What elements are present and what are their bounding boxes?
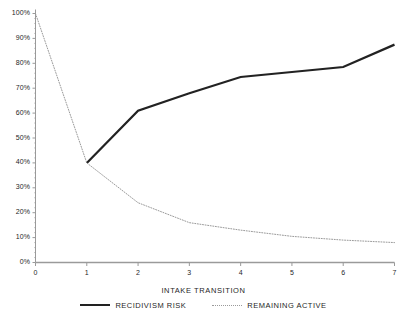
x-axis-title: INTAKE TRANSITION	[0, 286, 407, 295]
axis-group	[33, 10, 395, 267]
x-axis-tick-label: 2	[128, 269, 148, 276]
y-axis-tick-label: 50%	[0, 134, 30, 141]
y-axis-tick-label: 10%	[0, 233, 30, 240]
y-axis-tick-label: 90%	[0, 34, 30, 41]
x-axis-tick-label: 6	[333, 269, 353, 276]
legend-line-solid-icon	[80, 302, 110, 309]
x-axis-tick-label: 1	[77, 269, 97, 276]
legend-line-dotted-icon	[212, 302, 242, 309]
series-group	[36, 14, 395, 243]
series-line-0	[87, 45, 395, 163]
y-axis-tick-label: 100%	[0, 9, 30, 16]
x-axis-tick-label: 0	[26, 269, 46, 276]
legend-label: REMAINING ACTIVE	[247, 301, 326, 310]
y-axis-tick-label: 70%	[0, 84, 30, 91]
legend-label: RECIDIVISM RISK	[115, 301, 186, 310]
chart-legend: RECIDIVISM RISK REMAINING ACTIVE	[0, 301, 407, 310]
legend-item-recidivism-risk: RECIDIVISM RISK	[80, 301, 186, 310]
y-axis-tick-label: 0%	[0, 258, 30, 265]
x-axis-tick-label: 7	[385, 269, 405, 276]
x-axis-tick-label: 3	[179, 269, 199, 276]
y-axis-tick-label: 40%	[0, 158, 30, 165]
y-axis-tick-label: 20%	[0, 208, 30, 215]
legend-item-remaining-active: REMAINING ACTIVE	[212, 301, 326, 310]
x-axis-tick-label: 4	[231, 269, 251, 276]
y-axis-tick-label: 80%	[0, 59, 30, 66]
y-axis-tick-label: 60%	[0, 109, 30, 116]
chart-container: 0%10%20%30%40%50%60%70%80%90%100% 012345…	[0, 0, 407, 322]
series-line-1	[36, 14, 395, 243]
y-axis-tick-label: 30%	[0, 183, 30, 190]
x-axis-tick-label: 5	[282, 269, 302, 276]
